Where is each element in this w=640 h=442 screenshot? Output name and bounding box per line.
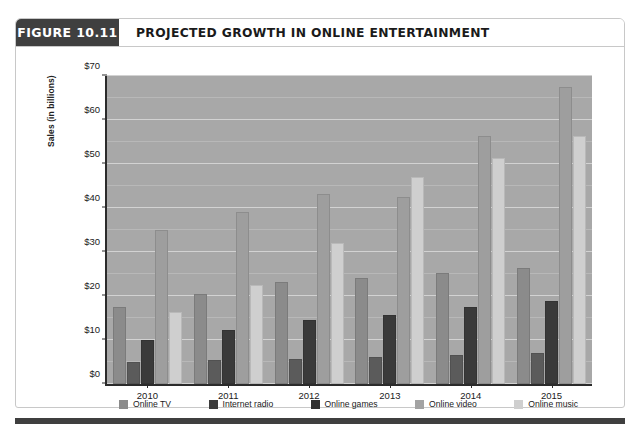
legend-swatch-icon	[209, 400, 218, 409]
bar[interactable]	[545, 301, 558, 384]
legend-item[interactable]: Online video	[415, 399, 477, 409]
figure-page: FIGURE 10.11 PROJECTED GROWTH IN ONLINE …	[0, 0, 640, 442]
legend-item[interactable]: Online games	[311, 399, 378, 409]
bar[interactable]	[355, 278, 368, 384]
bar[interactable]	[492, 158, 505, 384]
legend-swatch-icon	[119, 400, 128, 409]
bar-set	[275, 76, 344, 384]
x-axis-tick-mark	[471, 384, 472, 388]
legend-swatch-icon	[514, 400, 523, 409]
legend-swatch-icon	[311, 400, 320, 409]
y-axis-tick-label: $0	[89, 368, 100, 379]
bar[interactable]	[127, 362, 140, 384]
bar[interactable]	[478, 136, 491, 384]
bar-group: 2012	[269, 76, 350, 384]
legend-label: Online games	[325, 399, 378, 409]
bar[interactable]	[573, 136, 586, 384]
bar-group: 2010	[107, 76, 188, 384]
y-axis-tick-label: $30	[84, 236, 100, 247]
y-axis-tick-label: $20	[84, 280, 100, 291]
y-axis-tick-label: $70	[84, 60, 100, 71]
bar-set	[113, 76, 182, 384]
legend-label: Online music	[528, 399, 578, 409]
bar[interactable]	[464, 307, 477, 384]
bar[interactable]	[317, 194, 330, 384]
bar[interactable]	[194, 294, 207, 384]
legend-item[interactable]: Online TV	[119, 399, 171, 409]
x-axis-tick-mark	[147, 384, 148, 388]
bar[interactable]	[169, 312, 182, 384]
bar[interactable]	[559, 87, 572, 384]
bar[interactable]	[517, 268, 530, 384]
y-axis-tick-label: $50	[84, 148, 100, 159]
bar[interactable]	[450, 355, 463, 384]
bar[interactable]	[113, 307, 126, 384]
y-axis-tick-label: $10	[84, 324, 100, 335]
bar-group: 2013	[349, 76, 430, 384]
legend-label: Internet radio	[223, 399, 274, 409]
x-axis-tick-mark	[309, 384, 310, 388]
bar[interactable]	[155, 230, 168, 384]
bar[interactable]	[303, 320, 316, 384]
bar[interactable]	[141, 340, 154, 384]
x-axis-tick-mark	[390, 384, 391, 388]
bar[interactable]	[397, 197, 410, 384]
y-axis-tick-label: $40	[84, 192, 100, 203]
bar-group: 2015	[511, 76, 592, 384]
bar-group: 2014	[430, 76, 511, 384]
bar[interactable]	[436, 273, 449, 384]
legend-swatch-icon	[415, 400, 424, 409]
bar-set	[436, 76, 505, 384]
bar[interactable]	[289, 359, 302, 384]
bar-groups: 201020112012201320142015	[107, 76, 592, 384]
bar-set	[517, 76, 586, 384]
legend-label: Online video	[429, 399, 477, 409]
figure-number-badge: FIGURE 10.11	[16, 19, 119, 46]
y-axis-title: Sales (in billions)	[46, 75, 56, 147]
bar[interactable]	[411, 177, 424, 384]
figure-frame: FIGURE 10.11 PROJECTED GROWTH IN ONLINE …	[15, 18, 625, 408]
bottom-rule	[15, 418, 625, 424]
y-axis-tick-label: $60	[84, 104, 100, 115]
bar-group: 2011	[188, 76, 269, 384]
bar[interactable]	[236, 212, 249, 384]
x-axis-tick-mark	[552, 384, 553, 388]
legend-item[interactable]: Internet radio	[209, 399, 274, 409]
bar[interactable]	[383, 315, 396, 384]
figure-header: FIGURE 10.11 PROJECTED GROWTH IN ONLINE …	[16, 19, 624, 47]
bar[interactable]	[250, 285, 263, 384]
bar[interactable]	[531, 353, 544, 384]
legend-item[interactable]: Online music	[514, 399, 578, 409]
x-axis-tick-mark	[228, 384, 229, 388]
bar[interactable]	[275, 282, 288, 384]
bar-set	[194, 76, 263, 384]
bar[interactable]	[208, 360, 221, 384]
chart-area: Sales (in billions) $0$10$20$30$40$50$60…	[16, 47, 624, 408]
chart-legend: Online TVInternet radioOnline gamesOnlin…	[105, 399, 592, 409]
bar[interactable]	[369, 357, 382, 384]
plot-region: $0$10$20$30$40$50$60$70 2010201120122013…	[105, 76, 592, 386]
bar[interactable]	[222, 330, 235, 384]
legend-label: Online TV	[133, 399, 171, 409]
bar[interactable]	[331, 243, 344, 384]
bar-set	[355, 76, 424, 384]
figure-title: PROJECTED GROWTH IN ONLINE ENTERTAINMENT	[119, 19, 624, 46]
